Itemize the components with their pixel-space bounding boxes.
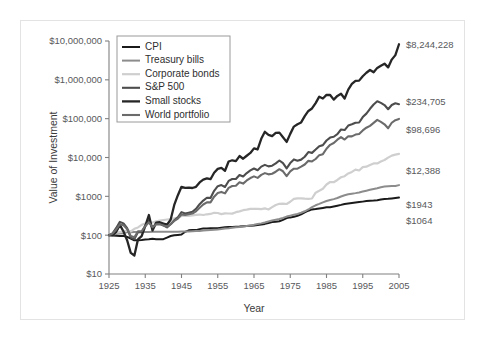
x-axis-tick-label: 1985 xyxy=(316,280,337,291)
end-value-label-s-p-500: $234,705 xyxy=(406,96,446,107)
x-axis-tick-label: 2005 xyxy=(388,280,409,291)
y-axis-tick-label: $10,000,000 xyxy=(49,35,102,46)
x-axis-tick-label: 1965 xyxy=(243,280,264,291)
end-value-label-small-stocks: $8,244,228 xyxy=(406,39,454,50)
x-axis-tick-label: 1945 xyxy=(171,280,192,291)
legend-label-cpi[interactable]: CPI xyxy=(145,41,162,52)
legend-label-treasury-bills[interactable]: Treasury bills xyxy=(145,54,204,65)
x-axis-title: Year xyxy=(243,302,265,314)
chart-container: $10$100$1000$10,000$100,000$1,000,000$10… xyxy=(0,0,485,349)
end-value-label-cpi: $1064 xyxy=(406,215,432,226)
series-line-world-portfolio xyxy=(109,119,399,237)
series-line-corporate-bonds xyxy=(109,154,399,235)
chart-legend[interactable]: CPITreasury billsCorporate bondsS&P 500S… xyxy=(117,36,230,122)
legend-label-world-portfolio[interactable]: World portfolio xyxy=(145,109,210,120)
y-axis-tick-label: $1000 xyxy=(76,191,102,202)
y-axis-tick-label: $10 xyxy=(86,268,102,279)
end-value-label-world-portfolio: $98,696 xyxy=(406,124,440,135)
y-axis-tick-label: $100,000 xyxy=(62,113,102,124)
y-axis-title: Value of Investment xyxy=(47,111,59,203)
legend-label-corporate-bonds[interactable]: Corporate bonds xyxy=(145,68,220,79)
investment-growth-chart: $10$100$1000$10,000$100,000$1,000,000$10… xyxy=(0,0,485,349)
x-axis-tick-label: 1935 xyxy=(135,280,156,291)
end-value-labels: $1064$1943$12,388$234,705$8,244,228$98,6… xyxy=(406,39,454,226)
end-value-label-treasury-bills: $1943 xyxy=(406,199,432,210)
y-axis-tick-label: $100 xyxy=(81,230,102,241)
legend-label-small-stocks[interactable]: Small stocks xyxy=(145,95,201,106)
x-axis-tick-label: 1975 xyxy=(280,280,301,291)
y-axis-tick-label: $10,000 xyxy=(68,152,102,163)
legend-label-s-p-500[interactable]: S&P 500 xyxy=(145,81,185,92)
series-line-cpi xyxy=(109,198,399,241)
x-axis-tick-label: 1925 xyxy=(98,280,119,291)
x-axis-tick-label: 1995 xyxy=(352,280,373,291)
end-value-label-corporate-bonds: $12,388 xyxy=(406,165,440,176)
x-axis-tick-label: 1955 xyxy=(207,280,228,291)
y-axis-tick-label: $1,000,000 xyxy=(54,74,102,85)
